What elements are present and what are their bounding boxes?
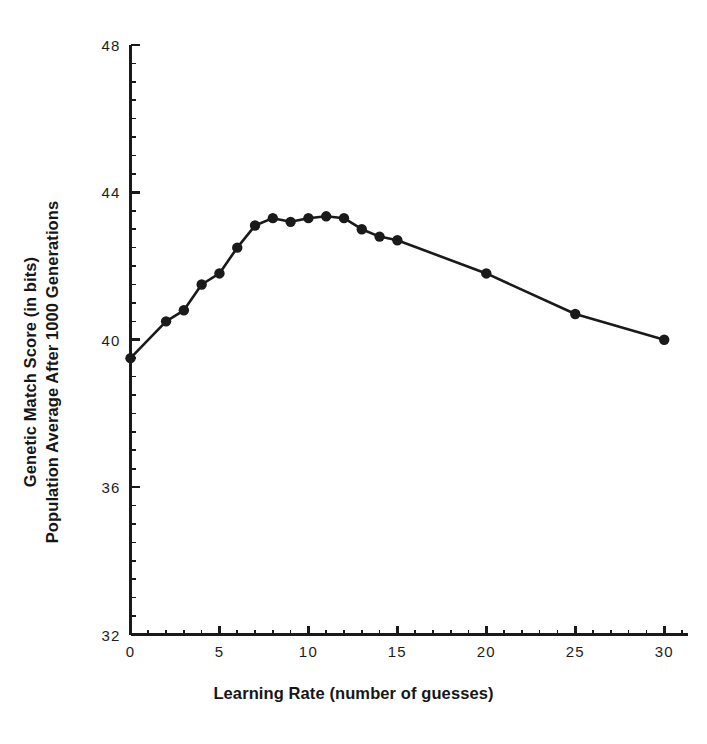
data-point-marker[interactable] (357, 224, 367, 234)
x-tick-label: 25 (566, 643, 585, 660)
x-tick-label: 15 (388, 643, 407, 660)
data-point-marker[interactable] (481, 268, 491, 278)
data-point-marker[interactable] (392, 235, 402, 245)
data-point-marker[interactable] (125, 353, 135, 363)
data-point-marker[interactable] (570, 309, 580, 319)
data-point-marker[interactable] (339, 213, 349, 223)
data-point-marker[interactable] (374, 231, 384, 241)
axes (131, 45, 689, 635)
data-point-marker[interactable] (250, 220, 260, 230)
data-point-marker[interactable] (214, 268, 224, 278)
y-tick-label: 44 (69, 184, 121, 201)
data-point-marker[interactable] (659, 335, 669, 345)
data-point-marker[interactable] (303, 213, 313, 223)
x-axis-label: Learning Rate (number of guesses) (0, 684, 707, 703)
x-tick-label: 30 (655, 643, 674, 660)
x-tick-label: 5 (215, 643, 225, 660)
data-point-marker[interactable] (268, 213, 278, 223)
data-point-marker[interactable] (179, 305, 189, 315)
chart-figure: Genetic Match Score (in bits) Population… (0, 0, 707, 744)
x-tick-label: 0 (126, 643, 136, 660)
y-tick-label: 40 (69, 331, 121, 348)
y-tick-label: 48 (69, 37, 121, 54)
x-tick-label: 20 (477, 643, 496, 660)
y-tick-label: 36 (69, 479, 121, 496)
data-point-marker[interactable] (285, 217, 295, 227)
data-series (125, 211, 669, 363)
data-point-marker[interactable] (196, 279, 206, 289)
major-ticks (131, 45, 665, 635)
x-tick-label: 10 (299, 643, 318, 660)
data-point-marker[interactable] (161, 316, 171, 326)
data-point-marker[interactable] (321, 211, 331, 221)
y-tick-label: 32 (69, 626, 121, 643)
minor-ticks (131, 63, 683, 634)
data-point-marker[interactable] (232, 242, 242, 252)
